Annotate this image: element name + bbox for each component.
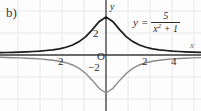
equation-label: y = 5 x2 + 1	[133, 11, 180, 34]
part-label: b)	[6, 6, 17, 19]
x-axis-label: x	[190, 41, 194, 50]
equation-lhs: y	[133, 17, 138, 28]
denominator-exponent: 2	[158, 22, 162, 30]
denominator-tail: + 1	[164, 23, 178, 34]
y-tick-label-neg2: −2	[88, 62, 100, 73]
fraction-numerator: 5	[160, 11, 171, 22]
x-tick-label-4: 4	[171, 56, 177, 67]
x-tick-label-neg2: 2	[58, 56, 64, 67]
y-tick-label-2: 2	[93, 28, 99, 39]
y-axis-label: y	[110, 2, 114, 12]
fraction-denominator: x2 + 1	[151, 23, 180, 34]
equation-equals-sign: =	[141, 17, 148, 28]
figure-container: b) y x O 2 2 4 2 −2 y = 5 x2 + 1	[0, 0, 201, 111]
x-tick-label-2: 2	[142, 56, 148, 67]
equation-fraction: 5 x2 + 1	[151, 11, 180, 34]
